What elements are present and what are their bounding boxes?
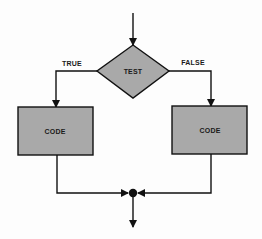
- code-left-label: CODE: [44, 128, 65, 135]
- code-right-label: CODE: [199, 127, 220, 134]
- junction-dot: [129, 189, 137, 197]
- code-false-node: CODE: [172, 106, 247, 154]
- test-label: TEST: [124, 68, 143, 75]
- test-decision-node: TEST: [97, 45, 169, 98]
- merge-left-edge: [57, 155, 128, 193]
- merge-right-edge: [138, 154, 211, 193]
- false-branch-edge: FALSE: [169, 59, 211, 106]
- true-branch-label: TRUE: [62, 60, 82, 67]
- code-true-node: CODE: [18, 107, 93, 155]
- flowchart-canvas: TEST TRUE FALSE CODE CODE: [0, 0, 262, 239]
- false-branch-label: FALSE: [181, 59, 205, 66]
- true-branch-edge: TRUE: [56, 60, 97, 107]
- flowchart-svg: TEST TRUE FALSE CODE CODE: [0, 0, 262, 239]
